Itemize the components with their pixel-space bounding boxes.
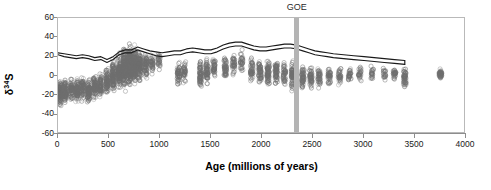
x-tick-mark [210, 134, 211, 138]
y-tick-label: 60 [32, 13, 54, 22]
y-tick-label: -40 [32, 109, 54, 118]
x-tick-label: 0 [37, 140, 77, 149]
scatter-points-layer [58, 42, 444, 108]
x-tick-label: 2500 [292, 140, 332, 149]
x-tick-mark [363, 134, 364, 138]
y-axis-label-superscript: 34 [3, 80, 10, 88]
y-axis-tick-labels: 6040200-20-40-60 [28, 0, 54, 190]
goe-vertical-band [294, 18, 299, 133]
y-tick-mark [53, 114, 57, 115]
y-tick-mark [53, 75, 57, 76]
x-tick-label: 1500 [190, 140, 230, 149]
y-tick-mark [53, 17, 57, 18]
goe-label: GOE [267, 2, 327, 12]
x-tick-mark [57, 134, 58, 138]
y-tick-label: 40 [32, 32, 54, 41]
x-axis-label: Age (millions of years) [57, 160, 466, 172]
y-tick-label: 20 [32, 51, 54, 60]
x-tick-mark [465, 134, 466, 138]
x-tick-label: 500 [88, 140, 128, 149]
y-tick-mark [53, 36, 57, 37]
y-axis-label: δ34S [3, 62, 16, 106]
x-tick-label: 3000 [343, 140, 383, 149]
y-tick-label: 0 [32, 71, 54, 80]
plot-svg [58, 18, 465, 133]
x-tick-label: 1000 [139, 140, 179, 149]
x-tick-mark [261, 134, 262, 138]
x-tick-mark [159, 134, 160, 138]
x-tick-label: 2000 [241, 140, 281, 149]
x-tick-label: 3500 [394, 140, 434, 149]
y-tick-label: -20 [32, 90, 54, 99]
x-tick-mark [108, 134, 109, 138]
y-tick-mark [53, 133, 57, 134]
x-tick-mark [414, 134, 415, 138]
y-tick-mark [53, 56, 57, 57]
figure-chart-delta34s-vs-age: δ34S 6040200-20-40-60 GOE 05001000150020… [0, 0, 491, 190]
y-tick-mark [53, 94, 57, 95]
x-tick-mark [312, 134, 313, 138]
x-tick-label: 4000 [445, 140, 485, 149]
plot-area [57, 17, 465, 133]
y-tick-label: -60 [32, 129, 54, 138]
